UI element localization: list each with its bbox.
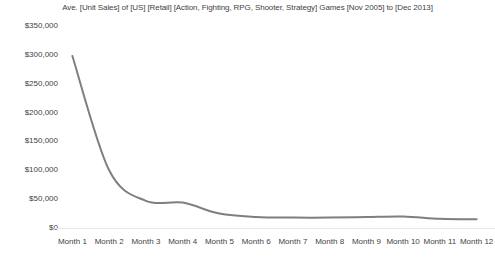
x-axis-tick-label: Month 5 [201,236,238,250]
x-axis-tick-label: Month 12 [458,236,495,250]
x-axis-tick-label: Month 9 [348,236,385,250]
chart-plot-svg [54,26,495,228]
y-axis-tick-label: $100,000 [4,165,58,175]
y-axis-tick-label: $150,000 [4,136,58,146]
x-axis-line [54,228,495,229]
x-axis-tick-label: Month 10 [385,236,422,250]
y-axis: $350,000$300,000$250,000$200,000$150,000… [0,0,58,259]
plot-area [54,26,495,228]
y-axis-tick-label: $50,000 [4,194,58,204]
chart-container: Ave. [Unit Sales] of [US] [Retail] [Acti… [0,0,495,259]
x-axis-tick-label: Month 2 [91,236,128,250]
x-axis-tick-label: Month 4 [164,236,201,250]
chart-title: Ave. [Unit Sales] of [US] [Retail] [Acti… [0,2,495,13]
x-axis: Month 1Month 2Month 3Month 4Month 5Month… [54,236,495,250]
y-axis-tick-label: $350,000 [4,21,58,31]
x-axis-tick-label: Month 8 [311,236,348,250]
y-axis-tick-label: $200,000 [4,108,58,118]
y-axis-tick-label: $300,000 [4,50,58,60]
x-axis-tick-label: Month 6 [238,236,275,250]
x-axis-tick-label: Month 11 [422,236,459,250]
y-axis-tick-label: $250,000 [4,79,58,89]
x-axis-tick-label: Month 3 [128,236,165,250]
data-series-line [72,56,476,219]
x-axis-tick-label: Month 1 [54,236,91,250]
x-axis-tick-label: Month 7 [275,236,312,250]
y-axis-tick-label: $0 [4,223,58,233]
